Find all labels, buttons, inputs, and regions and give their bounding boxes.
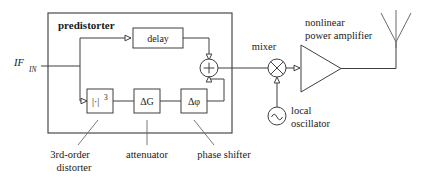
third-order-distorter-block [87, 89, 113, 113]
antenna-left-arm-icon [381, 13, 396, 42]
mixer-label: mixer [252, 41, 277, 52]
predistorter-title: predistorter [58, 19, 115, 31]
distorter-block-exponent: 3 [104, 93, 108, 102]
wire-delay-to-summer [183, 38, 209, 57]
local-oscillator-label-line1: local [291, 105, 311, 116]
attenuator-callout: attenuator [126, 149, 168, 160]
amplifier-label-line1: nonlinear [305, 17, 345, 28]
input-label-subscript: IN [28, 65, 37, 74]
arrowhead-amplifier-in [294, 65, 300, 71]
antenna-right-arm-icon [396, 13, 411, 42]
distorter-callout-line1: 3rd-order [50, 149, 90, 160]
distorter-callout-line2: distorter [57, 162, 92, 173]
arrowhead-delay-in [125, 35, 131, 41]
delay-block-label: delay [147, 33, 169, 44]
attenuator-block-label: ΔG [140, 96, 154, 107]
arrowhead-distorter-in [81, 98, 87, 104]
predistorter-block-diagram: predistorter IF IN delay |·| 3 ΔG Δφ mix… [0, 0, 435, 180]
distorter-block-label: |·| [92, 96, 99, 107]
wire-amplifier-to-antenna [341, 42, 396, 69]
local-oscillator-label-line2: oscillator [291, 118, 331, 129]
input-label-base: IF [13, 57, 24, 68]
power-amplifier-triangle [301, 45, 341, 92]
phase-shifter-callout: phase shifter [197, 149, 251, 160]
arrowhead-lo-in [274, 77, 280, 83]
amplifier-label-line2: power amplifier [305, 30, 373, 41]
phase-shifter-block-label: Δφ [188, 96, 200, 107]
